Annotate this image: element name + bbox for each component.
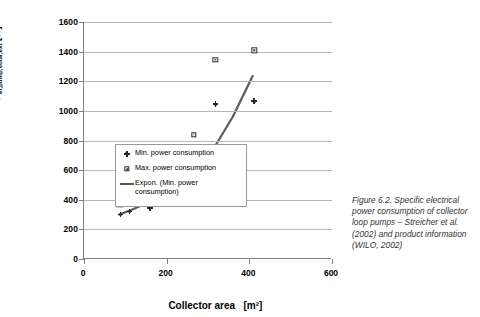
y-tick-label: 800: [64, 136, 78, 146]
y-tick-label: 1000: [59, 106, 78, 116]
y-tick-mark: [79, 81, 84, 82]
chart-figure: 02004006008001000120014001600 Pel,pump,s…: [0, 0, 340, 317]
x-axis-tick-labels: 0200400600: [83, 268, 331, 282]
y-tick-mark: [79, 111, 84, 112]
y-axis-title-subscript: el,pump,solar,ext: [0, 43, 3, 94]
y-tick-mark: [79, 170, 84, 171]
data-point-max: [252, 47, 257, 52]
x-tick-mark: [167, 259, 168, 264]
chart-legend: Min. power consumption Max. power consum…: [115, 144, 247, 207]
figure-caption: Figure 6.2. Specific electrical power co…: [352, 195, 474, 251]
y-axis-title-unit: [W]: [0, 26, 2, 43]
y-tick-label: 200: [64, 224, 78, 234]
legend-label-max: Max. power consumption: [135, 164, 216, 173]
legend-item-min: Min. power consumption: [119, 149, 242, 159]
gridline-y: [84, 81, 332, 82]
y-tick-mark: [79, 200, 84, 201]
trend-line-icon: [120, 183, 134, 185]
data-point-max: [213, 57, 218, 62]
x-tick-label: 400: [241, 268, 255, 278]
y-tick-label: 1400: [59, 47, 78, 57]
y-tick-mark: [79, 52, 84, 53]
y-tick-mark: [79, 22, 84, 23]
legend-item-trend: Expon. (Min. power consumption): [119, 179, 242, 196]
x-tick-label: 600: [324, 268, 338, 278]
gridline-y: [84, 52, 332, 53]
legend-label-min: Min. power consumption: [135, 149, 214, 158]
legend-item-max: Max. power consumption: [119, 164, 242, 174]
gridline-y: [84, 141, 332, 142]
legend-key-trend: [119, 179, 135, 189]
gridline-y: [84, 111, 332, 112]
max-marker-icon: [124, 166, 129, 171]
x-axis-title: Collector area [m²]: [83, 289, 331, 317]
x-tick-label: 0: [81, 268, 86, 278]
figure-container: 02004006008001000120014001600 Pel,pump,s…: [0, 0, 480, 317]
legend-key-max: [119, 164, 135, 174]
y-tick-mark: [79, 229, 84, 230]
y-axis-title-symbol: P: [0, 94, 2, 100]
gridline-y: [84, 229, 332, 230]
legend-label-trend: Expon. (Min. power consumption): [135, 179, 242, 196]
x-tick-mark: [84, 259, 85, 264]
x-tick-mark: [332, 259, 333, 264]
y-tick-label: 600: [64, 165, 78, 175]
gridline-y: [84, 22, 332, 23]
legend-key-min: [119, 149, 135, 159]
y-tick-label: 1200: [59, 76, 78, 86]
y-axis-tick-labels: 02004006008001000120014001600: [40, 22, 78, 259]
y-tick-label: 1600: [59, 17, 78, 27]
y-tick-label: 400: [64, 195, 78, 205]
y-tick-mark: [79, 141, 84, 142]
y-tick-label: 0: [73, 254, 78, 264]
plot-area: [83, 22, 331, 259]
x-tick-label: 200: [159, 268, 173, 278]
x-tick-mark: [249, 259, 250, 264]
x-axis-title-text: Collector area [m²]: [168, 300, 262, 311]
data-point-max: [191, 132, 196, 137]
y-axis-title: Pel,pump,solar,ext [W]: [0, 0, 2, 100]
